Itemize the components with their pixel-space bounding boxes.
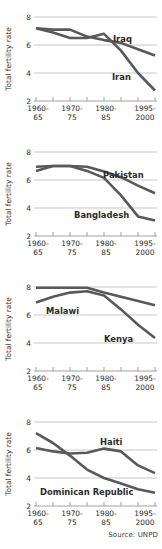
x-tick-label: 1995- bbox=[134, 104, 156, 113]
chart-panel-haiti-dominican-republic: 8 6 4 2 Total fertility rate 1960- 65 19… bbox=[0, 405, 162, 540]
series-label-kenya: Kenya bbox=[104, 334, 133, 344]
x-tick-label: 1995- bbox=[134, 509, 156, 518]
y-tick-label: 6 bbox=[26, 41, 31, 50]
chart-svg-4: 8 6 4 2 Total fertility rate 1960- 65 19… bbox=[0, 405, 162, 549]
x-tick-label: 85 bbox=[101, 248, 111, 257]
chart-panel-pakistan-bangladesh: 8 6 4 2 Total fertility rate 1960- 65 19… bbox=[0, 135, 162, 270]
x-tick-label: 85 bbox=[101, 113, 111, 122]
x-tick-label: 1995- bbox=[134, 374, 156, 383]
data-line-dominican-republic bbox=[36, 433, 155, 493]
x-tick-label: 65 bbox=[33, 383, 43, 392]
y-tick-label: 8 bbox=[26, 283, 31, 292]
x-tick-label: 2000 bbox=[136, 113, 155, 122]
data-line-haiti bbox=[36, 448, 155, 473]
x-tick-label: 1980- bbox=[95, 509, 117, 518]
y-axis-title: Total fertility rate bbox=[4, 432, 13, 497]
y-tick-label: 8 bbox=[26, 148, 31, 157]
y-tick-label: 4 bbox=[26, 69, 31, 78]
series-label-iraq: Iraq bbox=[113, 34, 132, 44]
x-tick-label: 65 bbox=[33, 518, 43, 527]
y-axis-title: Total fertility rate bbox=[4, 27, 13, 92]
y-tick-label: 8 bbox=[26, 418, 31, 427]
chart-panel-iraq-iran: 8 6 4 2 Total fertility rate 1960- 65 19… bbox=[0, 0, 162, 135]
y-tick-label: 6 bbox=[26, 446, 31, 455]
y-axis-title: Total fertility rate bbox=[4, 162, 13, 227]
fertility-rate-chart-figure: 8 6 4 2 Total fertility rate 1960- 65 19… bbox=[0, 0, 162, 549]
chart-svg-3: 8 6 4 2 Total fertility rate 1960- 65 19… bbox=[0, 270, 162, 405]
x-tick-label: 1980- bbox=[95, 104, 117, 113]
x-tick-label: 1995- bbox=[134, 239, 156, 248]
x-tick-label: 1980- bbox=[95, 374, 117, 383]
x-tick-label: 1960- bbox=[27, 104, 49, 113]
y-tick-label: 6 bbox=[26, 311, 31, 320]
x-tick-label: 75 bbox=[67, 113, 77, 122]
chart-svg-2: 8 6 4 2 Total fertility rate 1960- 65 19… bbox=[0, 135, 162, 270]
x-tick-label: 1970- bbox=[61, 509, 83, 518]
series-label-pakistan: Pakistan bbox=[103, 170, 144, 180]
y-tick-label: 8 bbox=[26, 13, 31, 22]
x-tick-label: 2000 bbox=[136, 248, 155, 257]
series-label-bangladesh: Bangladesh bbox=[74, 210, 129, 220]
x-tick-label: 1970- bbox=[61, 374, 83, 383]
x-tick-label: 75 bbox=[67, 518, 77, 527]
x-tick-label: 1970- bbox=[61, 104, 83, 113]
x-tick-label: 75 bbox=[67, 383, 77, 392]
y-axis-title: Total fertility rate bbox=[4, 297, 13, 362]
x-tick-label: 2000 bbox=[136, 518, 155, 527]
chart-panel-malawi-kenya: 8 6 4 2 Total fertility rate 1960- 65 19… bbox=[0, 270, 162, 405]
chart-svg-1: 8 6 4 2 Total fertility rate 1960- 65 19… bbox=[0, 0, 162, 135]
x-tick-label: 65 bbox=[33, 113, 43, 122]
x-tick-label: 1970- bbox=[61, 239, 83, 248]
series-label-malawi: Malawi bbox=[46, 306, 79, 316]
y-tick-label: 4 bbox=[26, 204, 31, 213]
x-tick-label: 85 bbox=[101, 383, 111, 392]
series-label-dominican-republic: Dominican Republic bbox=[40, 487, 133, 497]
x-tick-label: 1960- bbox=[27, 239, 49, 248]
y-tick-label: 4 bbox=[26, 474, 31, 483]
x-tick-label: 2000 bbox=[136, 383, 155, 392]
x-tick-label: 85 bbox=[101, 518, 111, 527]
x-tick-label: 1960- bbox=[27, 374, 49, 383]
series-label-iran: Iran bbox=[112, 72, 131, 82]
x-tick-label: 75 bbox=[67, 248, 77, 257]
x-tick-label: 1980- bbox=[95, 239, 117, 248]
source-note: Source: UNPD bbox=[108, 531, 158, 539]
series-label-haiti: Haiti bbox=[100, 437, 123, 447]
x-tick-label: 1960- bbox=[27, 509, 49, 518]
y-tick-label: 6 bbox=[26, 176, 31, 185]
y-tick-label: 4 bbox=[26, 339, 31, 348]
x-tick-label: 65 bbox=[33, 248, 43, 257]
